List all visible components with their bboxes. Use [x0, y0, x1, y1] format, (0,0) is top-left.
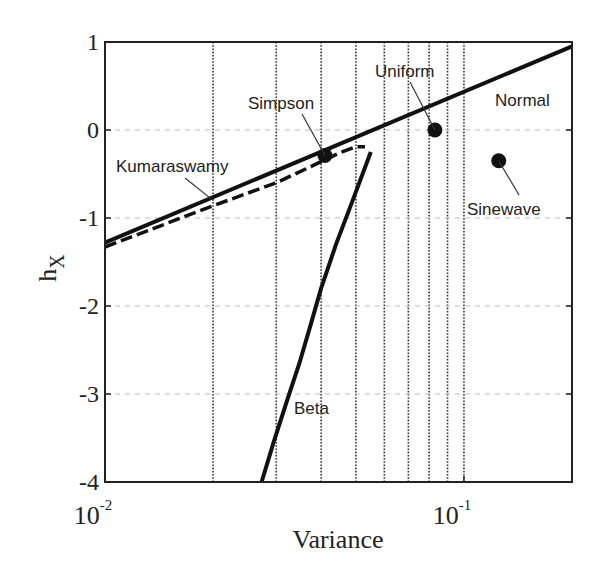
y-axis-label: hX	[33, 254, 68, 282]
x-axis-label: Variance	[293, 525, 384, 554]
annotation-leaders	[185, 82, 519, 200]
y-tick-label: 1	[87, 29, 99, 55]
y-tick-label: 0	[87, 117, 99, 143]
svg-text:hX: hX	[33, 254, 68, 282]
x-tick-label: 10-1	[433, 497, 472, 530]
label-simpson: Simpson	[248, 94, 314, 113]
x-tick-base: 10	[74, 501, 100, 530]
leader-kumaraswamy	[185, 178, 213, 200]
series-layer	[105, 46, 572, 482]
label-kumaraswamy: Kumaraswamy	[116, 157, 229, 176]
label-sinewave: Sinewave	[467, 200, 541, 219]
points-layer	[317, 123, 506, 169]
y-axis-label-main: h	[33, 269, 62, 282]
x-tick-base: 10	[433, 501, 459, 530]
leader-sinewave	[499, 161, 519, 195]
label-normal: Normal	[495, 91, 550, 110]
y-axis-label-subscript: X	[46, 254, 68, 269]
label-beta: Beta	[294, 399, 330, 418]
y-tick-label: -1	[79, 205, 99, 231]
x-axis-ticks: 10-210-1	[74, 476, 471, 530]
x-tick-exponent: -1	[459, 497, 472, 513]
y-tick-label: -2	[79, 293, 99, 319]
label-uniform: Uniform	[375, 62, 435, 81]
x-tick-exponent: -2	[100, 497, 113, 513]
y-tick-label: -4	[79, 469, 99, 495]
y-tick-label: -3	[79, 381, 99, 407]
x-tick-label: 10-2	[74, 497, 113, 530]
chart: 10-1-2-3-4 10-210-1 Kumaraswamy Simpson …	[0, 0, 606, 575]
series-beta	[262, 152, 371, 482]
